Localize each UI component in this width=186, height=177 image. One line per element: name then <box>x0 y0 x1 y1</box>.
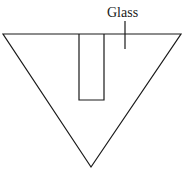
glass-diagram: Glass <box>0 0 186 177</box>
glass-label: Glass <box>107 5 138 20</box>
rectangular-slot <box>79 34 104 100</box>
